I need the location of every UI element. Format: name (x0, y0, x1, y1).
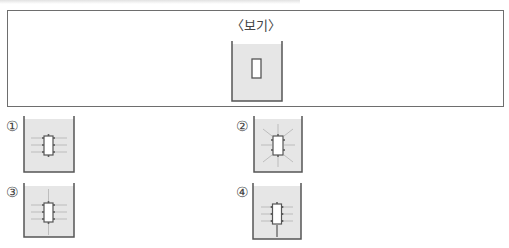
bogi-beaker-figure (231, 41, 283, 103)
option-2-beaker-figure[interactable] (253, 116, 303, 174)
option-2-number: ② (236, 118, 249, 134)
option-4-number: ④ (236, 184, 249, 200)
option-3-number: ③ (6, 184, 19, 200)
option-1-number: ① (6, 118, 19, 134)
option-1-beaker-figure[interactable] (23, 116, 75, 174)
cut-off-text-line (0, 0, 300, 4)
option-4-beaker-figure[interactable] (252, 183, 302, 241)
bogi-label: 〈보기〉 (8, 15, 503, 34)
option-3-beaker-figure[interactable] (23, 183, 75, 239)
